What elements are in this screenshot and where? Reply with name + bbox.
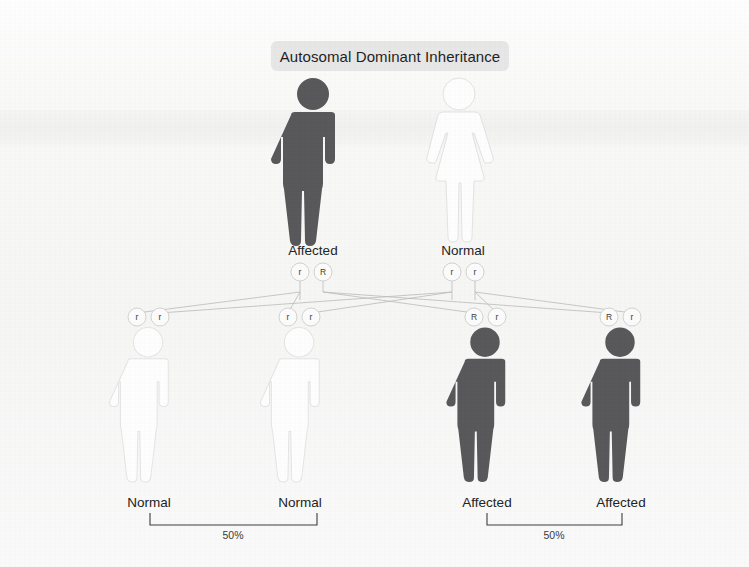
child-1-figure <box>109 327 168 482</box>
parent-father-figure <box>271 78 335 246</box>
parent-father-label: Affected <box>288 243 337 258</box>
child-2-figure <box>260 327 319 482</box>
allele-group-child-4: R r <box>600 308 641 326</box>
child-4-figure <box>581 327 640 482</box>
allele-father-1: r <box>299 267 302 277</box>
bracket-affected-percent: 50% <box>543 529 564 541</box>
parent-mother-figure <box>427 78 493 242</box>
allele-child-1-1: r <box>136 312 139 322</box>
allele-mother-2: r <box>474 267 477 277</box>
allele-father-2: R <box>320 267 326 277</box>
allele-group-mother: r r <box>443 263 484 281</box>
child-4-label: Affected <box>596 495 645 510</box>
bracket-affected <box>487 513 622 525</box>
child-3-figure <box>446 327 505 482</box>
allele-child-2-2: r <box>310 312 313 322</box>
child-2-label: Normal <box>278 495 322 510</box>
parent-mother-label: Normal <box>441 243 485 258</box>
allele-group-child-1: r r <box>128 308 169 326</box>
allele-group-child-2: r r <box>279 308 320 326</box>
allele-child-3-2: r <box>496 312 499 322</box>
allele-child-2-1: r <box>287 312 290 322</box>
inheritance-lines <box>137 281 632 313</box>
bracket-normal-percent: 50% <box>222 529 243 541</box>
allele-child-4-1: R <box>606 312 612 322</box>
allele-child-3-1: R <box>471 312 477 322</box>
allele-mother-1: r <box>451 267 454 277</box>
child-3-label: Affected <box>462 495 511 510</box>
allele-child-1-2: r <box>159 312 162 322</box>
allele-group-child-3: R r <box>465 308 506 326</box>
bracket-normal <box>150 513 317 525</box>
allele-group-father: r R <box>291 263 332 281</box>
child-1-label: Normal <box>127 495 171 510</box>
inheritance-diagram: r R r r r r r r R r R r <box>0 0 749 567</box>
allele-child-4-2: r <box>631 312 634 322</box>
